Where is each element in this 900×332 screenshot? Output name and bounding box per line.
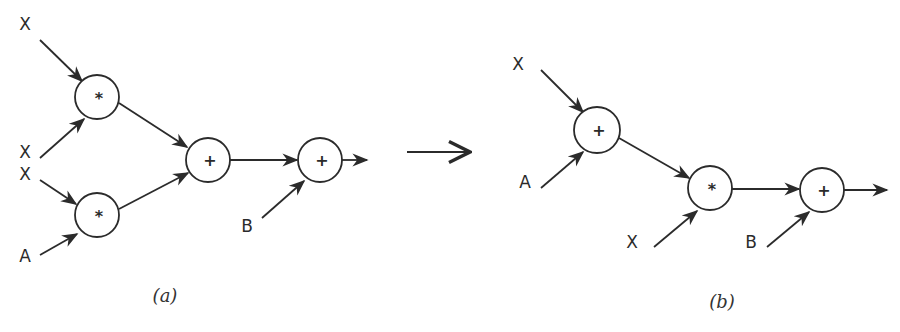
input-arrow-a-to-b_p1 — [541, 152, 583, 188]
input-arrow-a-to-a_m2 — [40, 234, 77, 255]
edge-arrow-b_p1-to-b_m1 — [619, 138, 689, 178]
input-arrow-x-to-a_m1 — [40, 40, 82, 81]
diagram-b-transformed-expression: XAXB+*+ — [512, 54, 887, 252]
edge-arrow-a_m1-to-a_p1 — [119, 103, 187, 147]
multiply-operator-icon: * — [95, 207, 104, 226]
input-label-x: X — [19, 142, 31, 162]
multiply-node: * — [688, 166, 732, 210]
expression-tree-figure: XXXAB**++ XAXB+*+ (a) (b) — [0, 0, 900, 332]
input-arrow-x-to-a_m2 — [40, 180, 76, 204]
plus-operator-icon: + — [592, 121, 605, 140]
input-label-x: X — [19, 164, 31, 184]
input-label-x: X — [19, 14, 31, 34]
diagram-a-original-expression: XXXAB**++ — [19, 14, 367, 266]
input-label-a: A — [19, 246, 31, 266]
plus-operator-icon: + — [315, 151, 328, 170]
multiply-operator-icon: * — [95, 89, 104, 108]
input-arrow-b-to-b_p2 — [767, 212, 809, 247]
add-node: + — [800, 168, 844, 212]
caption-b: (b) — [709, 291, 735, 312]
input-arrow-x-to-a_m1 — [40, 119, 84, 158]
add-node: + — [574, 107, 620, 153]
edge-arrow-a_m2-to-a_p1 — [119, 173, 188, 209]
add-node: + — [298, 138, 342, 182]
add-node: + — [186, 138, 230, 182]
caption-a: (a) — [153, 285, 178, 306]
input-arrow-x-to-b_p1 — [541, 70, 583, 112]
input-label-b: B — [241, 216, 253, 236]
input-label-x: X — [512, 54, 524, 74]
multiply-operator-icon: * — [708, 180, 717, 199]
input-arrow-x-to-b_m1 — [654, 211, 697, 247]
input-label-b: B — [745, 232, 757, 252]
plus-operator-icon: + — [203, 151, 216, 170]
multiply-node: * — [75, 193, 119, 237]
plus-operator-icon: + — [817, 181, 830, 200]
input-arrow-b-to-a_p2 — [262, 181, 304, 218]
input-label-a: A — [519, 172, 531, 192]
multiply-node: * — [75, 75, 119, 119]
input-label-x: X — [626, 232, 638, 252]
